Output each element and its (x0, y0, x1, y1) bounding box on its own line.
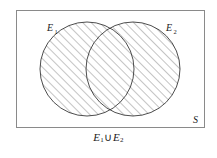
venn-diagram-figure: E 1 E 2 S E1∪E2 (0, 0, 217, 158)
caption-right-subscript: 2 (120, 136, 124, 144)
caption-union-operator: ∪ (104, 131, 113, 143)
figure-caption: E1∪E2 (0, 131, 217, 144)
universal-set-label-s: S (193, 114, 198, 125)
set-label-e2-subscript: 2 (174, 28, 177, 35)
set-label-e1-subscript: 1 (55, 28, 58, 35)
caption-right-symbol: E (113, 131, 120, 143)
set-label-e1-symbol: E (46, 22, 53, 33)
set-label-e2-symbol: E (165, 22, 172, 33)
